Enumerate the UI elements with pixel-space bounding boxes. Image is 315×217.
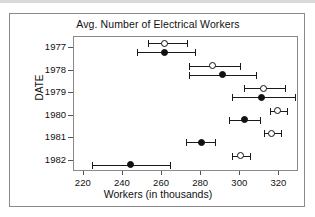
x-tick-label-300: 300 bbox=[222, 177, 256, 188]
y-tick-mark bbox=[68, 47, 73, 48]
data-point-filled-circle-1977 bbox=[161, 49, 168, 56]
x-tick-label-220: 220 bbox=[66, 177, 100, 188]
error-bar-cap bbox=[281, 130, 282, 137]
data-point-open-circle-1978 bbox=[209, 62, 216, 69]
error-bar-cap bbox=[195, 49, 196, 56]
x-tick-mark bbox=[278, 171, 279, 175]
error-bar-cap bbox=[240, 63, 241, 70]
y-tick-label-1981: 1981 bbox=[30, 131, 66, 142]
plot-area bbox=[73, 36, 298, 171]
x-axis-label: Workers (in thousands) bbox=[10, 188, 306, 200]
error-bar-cap bbox=[250, 153, 251, 160]
data-point-filled-circle-1980 bbox=[241, 116, 248, 123]
error-bar-cap bbox=[232, 94, 233, 101]
data-point-filled-circle-1982 bbox=[127, 161, 134, 168]
error-bar-cap bbox=[92, 162, 93, 169]
y-tick-label-1977: 1977 bbox=[30, 41, 66, 52]
error-bar-cap bbox=[232, 153, 233, 160]
y-tick-label-1979: 1979 bbox=[30, 86, 66, 97]
x-tick-label-280: 280 bbox=[183, 177, 217, 188]
data-point-filled-circle-1979 bbox=[258, 94, 265, 101]
error-bar-cap bbox=[285, 85, 286, 92]
data-point-open-circle-1982 bbox=[237, 152, 244, 159]
error-bar-cap bbox=[270, 108, 271, 115]
error-bar bbox=[148, 43, 187, 44]
x-tick-label-260: 260 bbox=[144, 177, 178, 188]
error-bar-cap bbox=[189, 63, 190, 70]
x-tick-mark bbox=[239, 171, 240, 175]
error-bar-cap bbox=[187, 40, 188, 47]
error-bar-cap bbox=[137, 49, 138, 56]
error-bar-cap bbox=[186, 139, 187, 146]
x-tick-mark bbox=[122, 171, 123, 175]
error-bar-cap bbox=[189, 72, 190, 79]
error-bar-cap bbox=[170, 162, 171, 169]
y-tick-mark bbox=[68, 160, 73, 161]
top-rule bbox=[0, 0, 315, 3]
data-point-open-circle-1979 bbox=[260, 85, 267, 92]
x-tick-mark bbox=[161, 171, 162, 175]
error-bar-cap bbox=[229, 117, 230, 124]
chart-figure: Avg. Number of Electrical Workers DATE W… bbox=[9, 13, 305, 207]
error-bar-cap bbox=[215, 139, 216, 146]
y-tick-mark bbox=[68, 137, 73, 138]
y-tick-label-1980: 1980 bbox=[30, 109, 66, 120]
x-tick-label-320: 320 bbox=[261, 177, 295, 188]
data-point-open-circle-1981 bbox=[268, 130, 275, 137]
data-point-open-circle-1980 bbox=[274, 107, 281, 114]
y-tick-label-1978: 1978 bbox=[30, 64, 66, 75]
y-tick-mark bbox=[68, 92, 73, 93]
y-tick-label-1982: 1982 bbox=[30, 154, 66, 165]
error-bar-cap bbox=[244, 85, 245, 92]
data-point-filled-circle-1981 bbox=[198, 139, 205, 146]
error-bar-cap bbox=[256, 72, 257, 79]
y-tick-mark bbox=[68, 115, 73, 116]
x-tick-label-240: 240 bbox=[105, 177, 139, 188]
x-tick-mark bbox=[200, 171, 201, 175]
error-bar-cap bbox=[287, 108, 288, 115]
chart-title: Avg. Number of Electrical Workers bbox=[10, 18, 306, 30]
error-bar-cap bbox=[148, 40, 149, 47]
data-point-open-circle-1977 bbox=[161, 40, 168, 47]
error-bar-cap bbox=[264, 130, 265, 137]
data-point-filled-circle-1978 bbox=[219, 71, 226, 78]
x-tick-mark bbox=[83, 171, 84, 175]
error-bar-cap bbox=[260, 117, 261, 124]
y-tick-mark bbox=[68, 70, 73, 71]
error-bar-cap bbox=[295, 94, 296, 101]
